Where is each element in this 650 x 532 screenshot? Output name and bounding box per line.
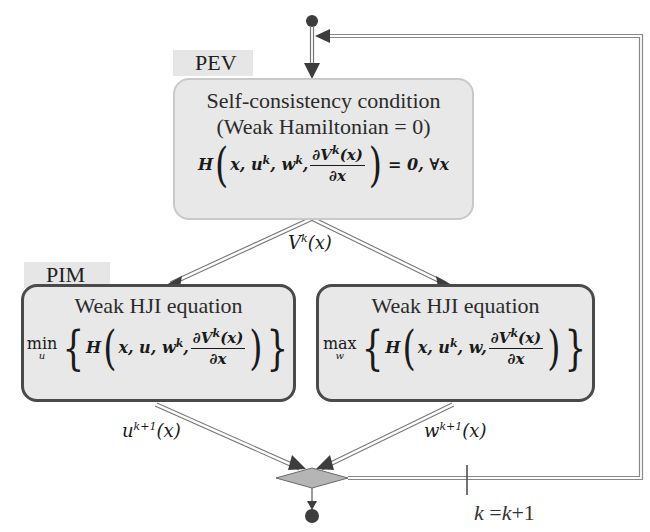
control-policy-label: uk+1(x)	[122, 420, 181, 441]
value-function-label: Vk(x)	[288, 232, 332, 253]
start-node	[306, 15, 318, 27]
pev-equation: H ( x, uk, wk, ∂Vk(x) ∂x ) = 0, ∀x	[175, 144, 472, 185]
end-node	[305, 509, 319, 523]
min-operator: minu	[27, 334, 58, 361]
pim-max-title: Weak HJI equation	[319, 293, 592, 319]
feedback-arrowhead	[315, 29, 330, 43]
disturbance-policy-label: wk+1(x)	[424, 420, 487, 441]
pev-title-line1: Self-consistency condition	[175, 88, 472, 114]
pim-min-box: Weak HJI equation minu { H ( x, u, wk, ∂…	[21, 284, 296, 402]
merge-diamond	[276, 468, 348, 488]
pim-max-equation: maxw { H ( x, uk, w, ∂Vk(x) ∂x ) }	[319, 327, 592, 368]
pev-title-line2: (Weak Hamiltonian = 0)	[175, 114, 472, 140]
pev-box: Self-consistency condition (Weak Hamilto…	[173, 78, 474, 220]
partial-derivative-fraction: ∂Vk(x) ∂x	[310, 144, 364, 185]
pev-tag: PEV	[173, 50, 253, 76]
paren-close: )	[369, 142, 382, 188]
pim-min-equation: minu { H ( x, u, wk, ∂Vk(x) ∂x ) }	[24, 327, 293, 368]
pim-max-box: Weak HJI equation maxw { H ( x, uk, w, ∂…	[316, 284, 595, 402]
iteration-update-label: k =k+1	[474, 500, 535, 526]
paren-open: (	[215, 142, 228, 188]
max-operator: maxw	[323, 334, 357, 361]
pev-tag-label: PEV	[195, 50, 237, 75]
pim-min-title: Weak HJI equation	[24, 293, 293, 319]
